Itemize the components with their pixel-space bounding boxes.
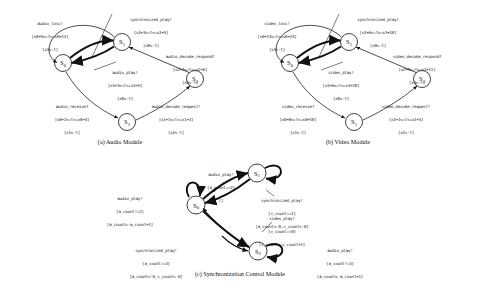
transition-label-video-decode-respond: video_decode_respond? [x2+9<=t<=x2+11] […: [374, 46, 460, 94]
transition-label-sync-audio-play-left: audio_play! [a_count!=2] [a_count<-a_cou…: [84, 188, 176, 236]
event-text: audio_play!: [84, 197, 176, 201]
event-text: audio_play!: [288, 249, 392, 253]
event-text: synchronized_play!: [100, 249, 212, 253]
action-text: [x3<-t]: [239, 48, 315, 52]
action-text: [x1<-t]: [258, 131, 338, 135]
guard-text: [x2+9<=t<=x2+11]: [374, 68, 460, 72]
event-text: synchronized_play!: [224, 199, 340, 203]
action-text: [x1<-t]: [32, 131, 112, 135]
transition-label-video-loss: video_loss! [x0+14<=t<=x0+24] [x3<-t]: [239, 13, 315, 61]
transition-label-audio-loss: audio_loss! [x0+5<=t<=x0+13] [x3<-t]: [13, 13, 87, 61]
event-text: video_play!: [303, 71, 379, 75]
event-text: audio_decode_respond?: [148, 55, 232, 59]
action-text: [x3<-t]: [374, 81, 460, 85]
caption-video-module: (b) Video Module: [288, 138, 408, 145]
caption-audio-module: (a) Audio Module: [60, 138, 180, 145]
guard-text: [a_count!=3]: [288, 262, 392, 266]
event-text: video_receive?: [258, 105, 338, 109]
event-text: synchronized_play!: [338, 18, 418, 22]
caption-sync-module: (c) Synchronization Control Module: [150, 270, 330, 277]
guard-text: [x0+8<=t<=x0+10]: [258, 118, 338, 122]
event-text: audio_receive?: [32, 105, 112, 109]
action-text: [x3<-t]: [13, 48, 87, 52]
guard-text: [x0+5<=t<=x0+13]: [13, 35, 87, 39]
guard-text: [x0+14<=t<=x0+24]: [239, 35, 315, 39]
action-text: [x2<-t]: [362, 131, 450, 135]
guard-text: [a_count==3]: [100, 262, 212, 266]
guard-text: [x1+1<=t<=x1+3]: [362, 118, 450, 122]
action-text: [x2<-t]: [133, 131, 219, 135]
action-text: [a_count<-a_count+1]: [84, 223, 176, 227]
event-text: video_decode_respond?: [374, 55, 460, 59]
guard-text: [x3+3<=t<=x3+5]: [112, 31, 190, 35]
guard-text: [x3+6<=t<=x3+10]: [303, 84, 379, 88]
state-node-s1b-video: S1: [346, 114, 363, 131]
event-text: video_loss!: [239, 22, 315, 26]
event-text: video_play!: [230, 217, 334, 221]
event-text: synchronized_play!: [112, 18, 190, 22]
event-text: audio_decode_request!: [133, 105, 219, 109]
event-text: audio_play!: [89, 71, 161, 75]
guard-text: [x1+1<=t<=x1+3]: [133, 118, 219, 122]
event-text: audio_loss!: [13, 22, 87, 26]
guard-text: [a_count!=2]: [84, 210, 176, 214]
guard-text: [x3+6<=t<=x3+10]: [338, 31, 418, 35]
guard-text: [x3+3<=t<=x3+5]: [89, 84, 161, 88]
transition-label-sync-audio-play-bottom: audio_play! [a_count!=3] [a_count<-a_cou…: [288, 240, 392, 288]
event-text: video_decode_request!: [362, 105, 450, 109]
guard-text: [v_count==0]: [230, 230, 334, 234]
event-text: audio_play!: [185, 173, 257, 177]
guard-text: [x0+2<=t<=x0+4]: [32, 118, 112, 122]
transition-label-sync-synchronized-play-bottom: synchronized_play! [a_count==3] [a_count…: [100, 240, 212, 288]
automata-figure: S0 S1 S2 S1: [0, 0, 479, 291]
